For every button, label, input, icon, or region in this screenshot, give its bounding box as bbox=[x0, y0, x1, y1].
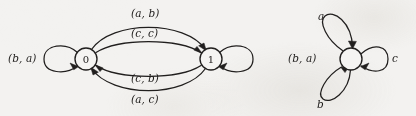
transition-loop-b bbox=[321, 67, 351, 100]
transition-label-loop-c: c bbox=[392, 53, 398, 64]
transition-label-self-loop-state1: (b, a) bbox=[288, 53, 316, 64]
transition-label-loop-a: a bbox=[318, 11, 324, 22]
transition-label-0-to-1-outer: (a, b) bbox=[131, 8, 159, 19]
transition-loop-a bbox=[323, 14, 353, 50]
state-label-0: 0 bbox=[83, 55, 89, 65]
transition-label-1-to-0-inner: (c, b) bbox=[131, 73, 159, 84]
right-automaton-group bbox=[321, 14, 388, 100]
transition-label-0-to-1-inner: (c, c) bbox=[131, 28, 158, 39]
transition-label-loop-b: b bbox=[317, 99, 324, 110]
state-node-single bbox=[340, 48, 362, 70]
state-label-1: 1 bbox=[208, 55, 214, 65]
figure-canvas: 0 1 (b, a) (b, a) (a, b) (c, c) (c, b) (… bbox=[0, 0, 416, 116]
transition-0-to-1-inner bbox=[96, 42, 201, 53]
transition-label-self-loop-state0: (b, a) bbox=[8, 53, 36, 64]
transition-label-1-to-0-outer: (a, c) bbox=[131, 94, 159, 105]
